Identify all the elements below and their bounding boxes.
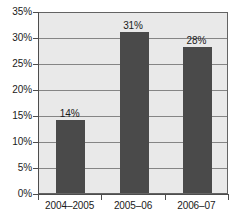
x-axis-tick [165, 195, 166, 200]
y-axis-tick-label: 25% [0, 59, 32, 69]
bar-value-label: 31% [108, 20, 158, 31]
bar [120, 32, 149, 193]
y-axis-tick [33, 90, 38, 91]
y-axis-tick-label: 30% [0, 33, 32, 43]
y-axis-line [38, 12, 39, 195]
bar-chart: 0%5%10%15%20%25%30%35% 14%2004–200531%20… [0, 0, 236, 217]
bar [183, 47, 212, 193]
y-axis-tick-label: 20% [0, 85, 32, 95]
y-axis-tick [33, 38, 38, 39]
y-axis-tick [33, 12, 38, 13]
y-axis-tick [33, 142, 38, 143]
y-axis-tick-label: 35% [0, 7, 32, 17]
y-axis: 0%5%10%15%20%25%30%35% [0, 0, 32, 217]
y-axis-tick-label: 15% [0, 111, 32, 121]
x-axis-tick [38, 195, 39, 200]
x-axis-line [38, 194, 229, 195]
y-axis-tick [33, 168, 38, 169]
x-axis-tick [101, 195, 102, 200]
y-axis-tick [33, 64, 38, 65]
bar-value-label: 14% [45, 108, 95, 119]
x-axis-tick-label: 2006–07 [156, 200, 236, 211]
bar-value-label: 28% [171, 35, 221, 46]
y-axis-tick-label: 10% [0, 137, 32, 147]
y-axis-tick [33, 116, 38, 117]
x-axis-tick [228, 195, 229, 200]
y-axis-tick-label: 5% [0, 163, 32, 173]
bar [56, 120, 85, 193]
y-axis-tick-label: 0% [0, 189, 32, 199]
